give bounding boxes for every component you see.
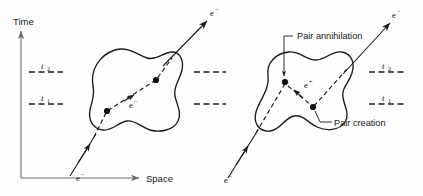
t2-sub-right: 2 bbox=[388, 65, 391, 72]
left-internal-worldline bbox=[94, 58, 172, 137]
left-incoming-electron-label: e bbox=[76, 173, 80, 183]
t1-sub-right: 1 bbox=[388, 97, 391, 104]
pair-annihilation-leader bbox=[284, 36, 293, 76]
right-incoming-electron-sup: − bbox=[229, 173, 233, 180]
left-internal-electron-sup: − bbox=[134, 98, 138, 105]
t1-label-right: t bbox=[382, 93, 385, 103]
right-outgoing-electron-sup: − bbox=[397, 8, 401, 15]
pair-creation-vertex bbox=[310, 104, 316, 110]
right-incoming-electron-label: e bbox=[224, 175, 228, 185]
pair-creation-leader bbox=[315, 111, 332, 122]
t2-sub-left: 2 bbox=[47, 65, 50, 72]
left-outgoing-electron-label: e bbox=[210, 8, 214, 18]
right-panel-group bbox=[228, 23, 390, 178]
positron-label-sup: + bbox=[309, 78, 313, 85]
right-incoming-arrowhead bbox=[236, 146, 248, 165]
t2-label-right: t bbox=[382, 61, 385, 71]
t1-label-left: t bbox=[41, 93, 44, 103]
space-axis-label: Space bbox=[146, 173, 173, 184]
t1-sub-left: 1 bbox=[47, 97, 50, 104]
left-outgoing-worldline bbox=[163, 21, 207, 66]
pair-annihilation-vertex bbox=[282, 79, 288, 85]
left-panel-group bbox=[70, 21, 207, 176]
left-internal-electron-label: e bbox=[129, 100, 133, 110]
left-incoming-electron-sup: − bbox=[81, 171, 85, 178]
left-incoming-arrowhead bbox=[78, 144, 90, 163]
positron-label: e bbox=[304, 80, 308, 90]
left-vertex-upper bbox=[153, 77, 159, 83]
time-axis-label: Time bbox=[13, 16, 34, 27]
pair-creation-callout: Pair creation bbox=[334, 118, 386, 128]
left-outgoing-electron-sup: − bbox=[215, 6, 219, 13]
left-vertex-lower bbox=[104, 108, 110, 114]
spacetime-diagram: Time Space t 2 t 1 t 2 t 1 e − e − e − e… bbox=[0, 0, 423, 196]
t2-label-left: t bbox=[41, 61, 44, 71]
right-outgoing-electron-label: e bbox=[392, 10, 396, 20]
right-positron-arrowhead bbox=[294, 90, 303, 98]
figure-container: Time Space t 2 t 1 t 2 t 1 e − e − e − e… bbox=[0, 0, 423, 196]
pair-annihilation-callout: Pair annihilation bbox=[297, 31, 362, 41]
left-blob-outline bbox=[90, 49, 183, 131]
